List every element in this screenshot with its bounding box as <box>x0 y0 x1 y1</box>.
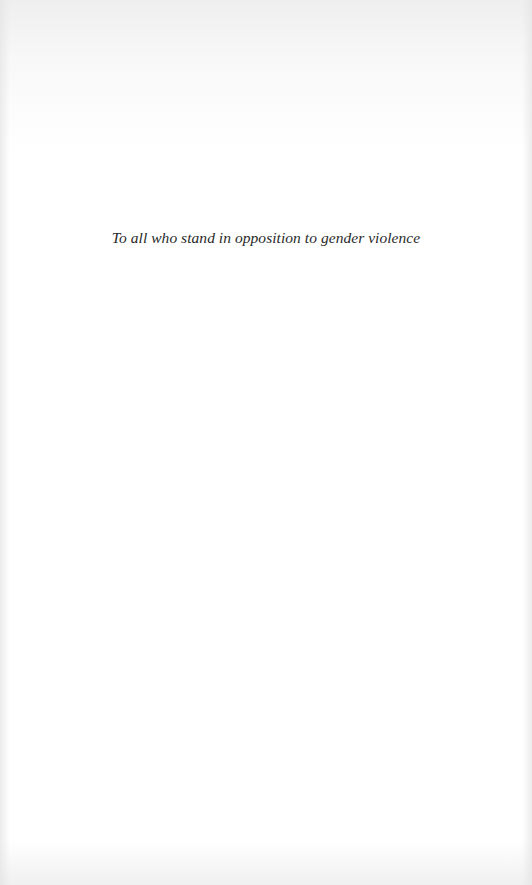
book-page: To all who stand in opposition to gender… <box>0 0 532 885</box>
scan-shadow-bottom <box>0 840 532 885</box>
scan-shadow-left <box>0 0 10 885</box>
scan-shadow-right <box>522 0 532 885</box>
dedication-text: To all who stand in opposition to gender… <box>0 226 532 250</box>
scan-shadow-top <box>0 0 532 150</box>
